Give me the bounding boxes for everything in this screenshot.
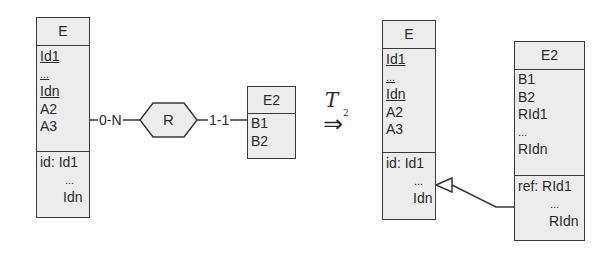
identifier-constraint: id: Id1 <box>40 154 89 172</box>
identifier-constraint: id: Id1 <box>386 155 435 173</box>
constraint-ellipsis: ... <box>40 172 89 190</box>
right-entity-e: E Id1 ... Idn A2 A3 id: Id1 ... Idn <box>382 20 436 220</box>
attribute-list: B1 B2 <box>248 115 295 150</box>
right-cardinality: 1-1 <box>208 113 230 127</box>
attribute: B2 <box>251 133 295 151</box>
constraint-list: id: Id1 ... Idn <box>37 151 89 207</box>
constraint-component: Idn <box>40 189 89 207</box>
left-cardinality: 0-N <box>98 113 123 127</box>
attribute: RId1 <box>518 106 584 124</box>
constraint-component: RIdn <box>518 213 584 231</box>
left-entity-e: E Id1 ... Idn A2 A3 id: Id1 ... Idn <box>36 17 90 218</box>
attribute: Id1 <box>386 51 435 69</box>
attribute: A2 <box>386 104 435 122</box>
attribute-ellipsis: ... <box>40 66 89 84</box>
attribute: Idn <box>40 83 89 101</box>
attribute: A2 <box>40 101 89 119</box>
transformation-symbol: T <box>325 88 338 112</box>
attribute: B1 <box>518 71 584 89</box>
attribute-ellipsis: ... <box>518 124 584 142</box>
constraint-list: id: Id1 ... Idn <box>383 152 435 208</box>
attribute: B1 <box>251 115 295 133</box>
attribute: B2 <box>518 89 584 107</box>
attribute: Id1 <box>40 48 89 66</box>
entity-name: E2 <box>248 87 295 114</box>
constraint-list: ref: RId1 ... RIdn <box>515 175 584 231</box>
attribute: A3 <box>386 121 435 139</box>
right-entity-e2: E2 B1 B2 RId1 ... RIdn ref: RId1 ... RId… <box>514 41 585 241</box>
relationship-name: R <box>153 111 184 128</box>
attribute-list: Id1 ... Idn A2 A3 <box>37 48 89 136</box>
reference-line <box>452 185 514 207</box>
transformation-label: T <box>325 88 338 112</box>
transformation-subscript: 2 <box>343 108 349 118</box>
entity-name: E <box>383 21 435 49</box>
transformation-arrow-icon: ⇒ <box>323 110 343 138</box>
reference-constraint: ref: RId1 <box>518 178 584 196</box>
constraint-ellipsis: ... <box>386 173 435 191</box>
left-entity-e2: E2 B1 B2 <box>247 86 296 159</box>
constraint-ellipsis: ... <box>518 196 584 214</box>
attribute-ellipsis: ... <box>386 69 435 87</box>
entity-name: E <box>37 18 89 46</box>
attribute: Idn <box>386 86 435 104</box>
attribute: RIdn <box>518 141 584 159</box>
reference-arrowhead-icon <box>436 178 452 192</box>
attribute-list: Id1 ... Idn A2 A3 <box>383 51 435 139</box>
attribute-list: B1 B2 RId1 ... RIdn <box>515 71 584 159</box>
constraint-component: Idn <box>386 190 435 208</box>
entity-name: E2 <box>515 42 584 70</box>
attribute: A3 <box>40 118 89 136</box>
